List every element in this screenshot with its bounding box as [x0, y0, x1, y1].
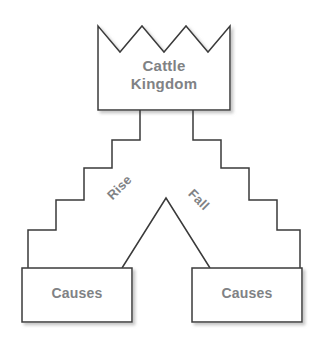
- step-pyramid-connector-right: [193, 110, 300, 268]
- causes-right-node-label: Causes: [192, 285, 302, 302]
- causes-left-node-label: Causes: [22, 285, 132, 302]
- crown-node-label: Cattle Kingdom: [98, 57, 230, 92]
- diagram-canvas: Cattle Kingdom Causes Causes Rise Fall: [0, 0, 324, 346]
